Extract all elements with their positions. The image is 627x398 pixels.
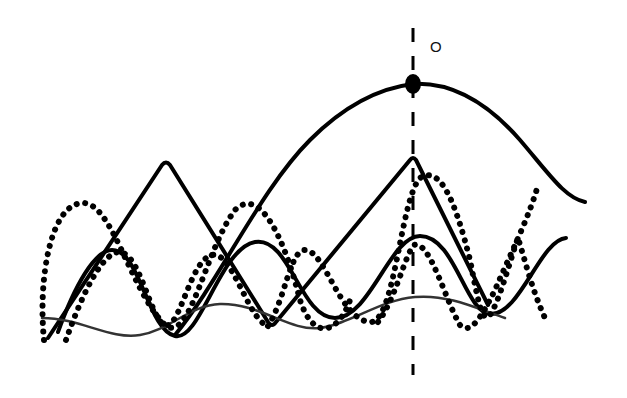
waveform-diagram (0, 0, 627, 398)
point-label: O (430, 38, 442, 55)
curve-group (42, 84, 585, 340)
peak-point-marker (405, 74, 421, 94)
